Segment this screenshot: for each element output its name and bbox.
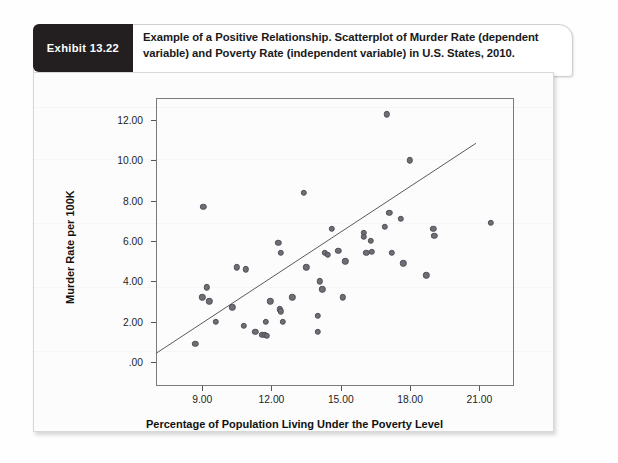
y-tick-label: 10.00 (83, 155, 143, 166)
x-tick-mark (271, 386, 272, 391)
x-tick-mark (341, 386, 342, 391)
x-tick-mark (479, 386, 480, 391)
x-tick-label: 18.00 (380, 394, 440, 405)
exhibit-number-badge: Exhibit 13.22 (33, 24, 133, 72)
y-tick-label: 4.00 (83, 276, 143, 287)
y-tick-mark (151, 362, 156, 363)
y-tick-mark (151, 241, 156, 242)
exhibit-caption: Example of a Positive Relationship. Scat… (143, 29, 558, 61)
exhibit-figure-page: Exhibit 13.22 Example of a Positive Rela… (0, 0, 618, 463)
x-tick-label: 21.00 (449, 394, 509, 405)
regression-line (34, 73, 554, 432)
y-tick-mark (151, 281, 156, 282)
figure-panel: .002.004.006.008.0010.0012.009.0012.0015… (33, 72, 554, 432)
y-axis-title: Murder Rate per 100K (64, 190, 76, 304)
x-axis-title: Percentage of Population Living Under th… (34, 418, 554, 430)
exhibit-number-label: Exhibit 13.22 (47, 42, 119, 54)
x-tick-label: 15.00 (311, 394, 371, 405)
x-tick-mark (202, 386, 203, 391)
y-tick-label: 12.00 (83, 115, 143, 126)
y-tick-label: .00 (83, 356, 143, 367)
x-tick-label: 12.00 (241, 394, 301, 405)
scatterplot: .002.004.006.008.0010.0012.009.0012.0015… (34, 73, 554, 432)
y-tick-mark (151, 160, 156, 161)
y-tick-mark (151, 201, 156, 202)
x-tick-label: 9.00 (172, 394, 232, 405)
y-tick-label: 6.00 (83, 235, 143, 246)
x-tick-mark (410, 386, 411, 391)
y-tick-label: 2.00 (83, 316, 143, 327)
y-tick-mark (151, 322, 156, 323)
y-tick-label: 8.00 (83, 195, 143, 206)
y-tick-mark (151, 120, 156, 121)
